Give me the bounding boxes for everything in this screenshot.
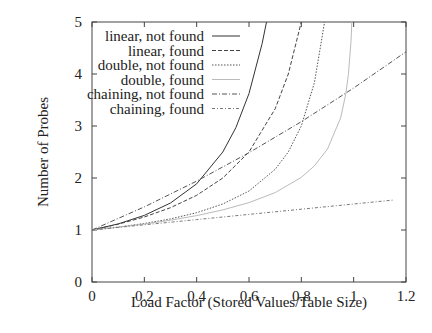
- y-tick-label: 1: [75, 222, 83, 238]
- x-tick-label: 1.2: [397, 288, 416, 304]
- y-axis-tick-labels: 012345: [75, 14, 83, 290]
- y-tick-label: 4: [75, 66, 83, 82]
- y-tick-label: 5: [75, 14, 83, 30]
- x-axis-title: Load Factor (Stored Values/Table Size): [131, 294, 367, 311]
- legend-label: chaining, found: [110, 101, 205, 117]
- series-double-not-found: [92, 22, 325, 230]
- y-tick-label: 3: [75, 118, 83, 134]
- line-chart: 00.20.40.60.811.2 012345 linear, not fou…: [0, 0, 432, 333]
- y-axis-title: Number of Probes: [35, 97, 51, 207]
- y-tick-label: 0: [75, 274, 83, 290]
- x-tick-label: 0: [88, 288, 96, 304]
- legend: linear, not foundlinear, founddouble, no…: [87, 28, 240, 117]
- y-tick-label: 2: [75, 170, 83, 186]
